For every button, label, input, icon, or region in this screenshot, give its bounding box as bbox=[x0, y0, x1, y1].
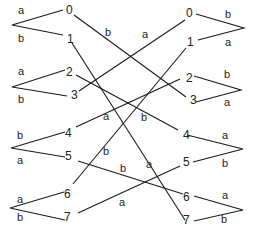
right-branch-6-7: a b bbox=[194, 189, 243, 225]
edge-label: a bbox=[222, 129, 229, 141]
left-branch-0-1: a b bbox=[12, 4, 63, 44]
edge-label: a bbox=[119, 196, 126, 208]
edge-label: a bbox=[17, 154, 24, 166]
edge-label: a bbox=[146, 158, 153, 170]
left-node-0: 0 bbox=[66, 3, 73, 17]
edge-label: a bbox=[222, 189, 229, 201]
cross-edge-7-5: a bbox=[78, 166, 180, 213]
left-node-labels: 0 1 2 3 4 5 6 7 bbox=[64, 3, 78, 224]
left-node-4: 4 bbox=[65, 126, 72, 140]
edge-label: b bbox=[18, 32, 24, 44]
edge-label: a bbox=[103, 110, 110, 122]
left-node-7: 7 bbox=[64, 210, 71, 224]
edge-label: a bbox=[225, 36, 232, 48]
edge-label: a bbox=[18, 65, 25, 77]
edge-label: b bbox=[224, 68, 230, 80]
edge-label: b bbox=[225, 8, 231, 20]
cross-edge-line bbox=[78, 166, 180, 213]
cross-edge-line bbox=[74, 15, 186, 97]
right-node-3: 3 bbox=[190, 93, 197, 107]
right-branch-lines bbox=[194, 76, 241, 102]
edge-label: b bbox=[17, 211, 23, 223]
edge-label: b bbox=[120, 162, 126, 174]
cross-edge-0-3: b bbox=[74, 15, 186, 97]
edge-label: a bbox=[17, 193, 24, 205]
cross-edge-2-4: b bbox=[76, 75, 178, 130]
cross-edge-6-1: b bbox=[73, 48, 186, 184]
right-node-6: 6 bbox=[183, 190, 190, 204]
cross-edge-line bbox=[76, 79, 180, 127]
right-branch-0-1: b a bbox=[196, 8, 244, 48]
left-node-6: 6 bbox=[64, 187, 71, 201]
edge-label: b bbox=[17, 129, 23, 141]
edge-label: b bbox=[103, 145, 109, 157]
right-node-0: 0 bbox=[186, 6, 193, 20]
right-branch-lines bbox=[194, 196, 243, 221]
left-node-2: 2 bbox=[66, 65, 73, 79]
edge-label: b bbox=[18, 93, 24, 105]
cross-edge-4-2: a bbox=[76, 79, 180, 127]
left-branch-2-3: a b bbox=[12, 65, 67, 105]
cross-edge-line bbox=[73, 48, 186, 184]
edge-label: b bbox=[221, 213, 227, 225]
right-node-4: 4 bbox=[183, 128, 190, 142]
left-branch-4-5: b a bbox=[11, 129, 65, 166]
edge-label: a bbox=[18, 4, 25, 16]
right-node-5: 5 bbox=[183, 155, 190, 169]
edge-label: b bbox=[141, 111, 147, 123]
right-node-1: 1 bbox=[187, 35, 194, 49]
left-branch-6-7: a b bbox=[10, 192, 65, 223]
edge-label: a bbox=[224, 96, 231, 108]
left-node-5: 5 bbox=[65, 149, 72, 163]
edge-label: a bbox=[142, 28, 149, 40]
right-branch-2-3: b a bbox=[194, 68, 241, 108]
right-branch-4-5: a b bbox=[187, 129, 243, 169]
right-node-labels: 0 1 2 3 4 5 6 7 bbox=[183, 6, 197, 227]
right-branch-lines bbox=[187, 135, 243, 162]
right-node-7: 7 bbox=[183, 213, 190, 227]
cross-edge-line bbox=[76, 75, 178, 130]
left-node-3: 3 bbox=[71, 88, 78, 102]
right-branch-lines bbox=[196, 14, 244, 40]
left-node-1: 1 bbox=[67, 32, 74, 46]
edge-label: b bbox=[105, 26, 111, 38]
edge-label: b bbox=[222, 157, 228, 169]
state-transition-diagram: a b a b b a a b b a b a a b a b b bbox=[0, 0, 254, 228]
right-node-2: 2 bbox=[186, 71, 193, 85]
